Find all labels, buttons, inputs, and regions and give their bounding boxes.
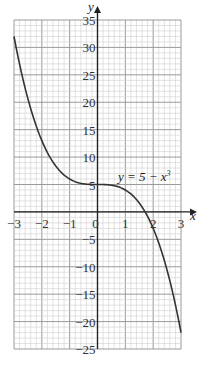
y-tick-label: −25 (75, 342, 95, 357)
curve-label: y = 5 − x3 (116, 169, 171, 184)
x-tick-label: −1 (63, 216, 77, 231)
y-tick-label: −20 (75, 315, 95, 330)
y-tick-label: 25 (83, 68, 96, 83)
y-tick-label: −10 (75, 260, 95, 275)
x-axis-label: x (189, 208, 196, 223)
y-tick-label: −5 (82, 232, 96, 247)
x-tick-label: −2 (35, 216, 49, 231)
y-tick-label: −15 (75, 287, 95, 302)
cubic-graph: −3−2−101233530252015105−5−10−15−20−25 y … (0, 0, 202, 367)
y-tick-label: 35 (83, 13, 96, 28)
x-tick-label: 0 (92, 216, 99, 231)
y-tick-label: 30 (83, 40, 96, 55)
y-tick-label: 10 (83, 150, 96, 165)
x-tick-label: −3 (7, 216, 21, 231)
x-tick-label: 1 (122, 216, 129, 231)
y-tick-label: 15 (83, 123, 96, 138)
y-axis-label: y (86, 0, 94, 14)
x-tick-label: 3 (178, 216, 185, 231)
y-tick-label: 20 (83, 95, 96, 110)
